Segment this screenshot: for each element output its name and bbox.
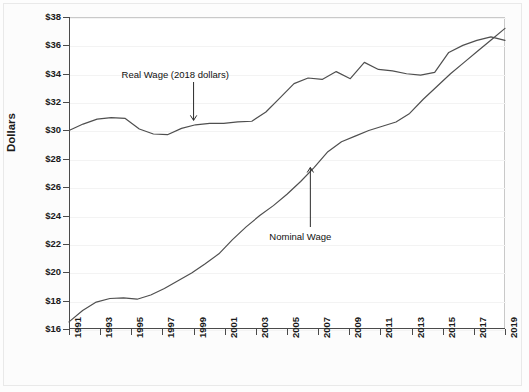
y-tick-mark — [63, 244, 69, 245]
gridline — [70, 160, 506, 161]
x-tick-mark — [318, 329, 319, 335]
gridline — [70, 245, 506, 246]
x-tick-label: 1999 — [198, 317, 208, 338]
x-tick-label: 2019 — [509, 317, 519, 338]
annotation-real-wage: Real Wage (2018 dollars) — [122, 70, 229, 80]
y-tick-label: $26 — [25, 182, 61, 192]
y-tick-mark — [63, 102, 69, 103]
x-tick-mark — [225, 329, 226, 335]
annotation-nominal-wage: Nominal Wage — [269, 232, 331, 242]
y-tick-mark — [63, 74, 69, 75]
y-tick-mark — [63, 159, 69, 160]
x-tick-label: 2007 — [322, 317, 332, 338]
x-tick-label: 2005 — [291, 317, 301, 338]
x-tick-label: 2013 — [416, 317, 426, 338]
y-tick-label: $18 — [25, 296, 61, 306]
y-axis-label: Dollars — [6, 113, 18, 152]
x-tick-mark — [505, 329, 506, 335]
x-tick-mark — [474, 329, 475, 335]
y-tick-mark — [63, 216, 69, 217]
gridline — [70, 18, 506, 19]
x-tick-mark — [380, 329, 381, 335]
y-tick-mark — [63, 17, 69, 18]
x-tick-label: 1997 — [166, 317, 176, 338]
y-tick-label: $32 — [25, 97, 61, 107]
x-tick-label: 1991 — [73, 317, 83, 338]
y-tick-label: $34 — [25, 69, 61, 79]
x-tick-mark — [100, 329, 101, 335]
y-tick-mark — [63, 130, 69, 131]
y-tick-label: $22 — [25, 239, 61, 249]
y-tick-label: $38 — [25, 12, 61, 22]
x-tick-label: 2017 — [478, 317, 488, 338]
gridline — [70, 188, 506, 189]
x-tick-mark — [349, 329, 350, 335]
y-tick-mark — [63, 187, 69, 188]
plot-area — [69, 17, 505, 329]
x-tick-mark — [162, 329, 163, 335]
x-tick-mark — [287, 329, 288, 335]
gridline — [70, 273, 506, 274]
gridline — [70, 103, 506, 104]
x-tick-label: 2015 — [447, 317, 457, 338]
y-axis-spine — [69, 17, 70, 329]
x-tick-mark — [412, 329, 413, 335]
y-tick-label: $16 — [25, 324, 61, 334]
x-tick-mark — [131, 329, 132, 335]
y-tick-label: $28 — [25, 154, 61, 164]
y-tick-mark — [63, 301, 69, 302]
x-tick-label: 1995 — [135, 317, 145, 338]
y-tick-mark — [63, 272, 69, 273]
x-tick-label: 2003 — [260, 317, 270, 338]
x-tick-label: 2009 — [353, 317, 363, 338]
gridline — [70, 46, 506, 47]
x-tick-mark — [69, 329, 70, 335]
gridline — [70, 131, 506, 132]
y-tick-label: $20 — [25, 267, 61, 277]
chart-figure: $38$36$34$32$30$28$26$24$22$20$18$16 199… — [0, 0, 529, 392]
y-tick-mark — [63, 45, 69, 46]
x-tick-mark — [194, 329, 195, 335]
y-tick-label: $36 — [25, 40, 61, 50]
y-tick-label: $24 — [25, 211, 61, 221]
gridline — [70, 217, 506, 218]
y-tick-label: $30 — [25, 125, 61, 135]
x-tick-label: 1993 — [104, 317, 114, 338]
x-tick-label: 2011 — [384, 317, 394, 338]
gridline — [70, 302, 506, 303]
x-tick-mark — [256, 329, 257, 335]
x-tick-mark — [443, 329, 444, 335]
x-tick-label: 2001 — [229, 317, 239, 338]
